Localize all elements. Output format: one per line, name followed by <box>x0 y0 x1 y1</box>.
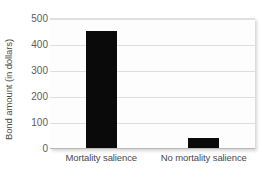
gridline <box>50 45 255 46</box>
y-tick-label: 100 <box>18 117 48 128</box>
y-tick-label: 500 <box>18 13 48 24</box>
gridline <box>50 123 255 124</box>
bar <box>86 31 117 148</box>
plot-area <box>50 18 255 149</box>
gridline <box>50 19 255 20</box>
y-tick-label: 300 <box>18 65 48 76</box>
category-label: No mortality salience <box>161 152 247 163</box>
gridline <box>50 97 255 98</box>
y-axis-title: Bond amount (in dollars) <box>0 0 16 179</box>
y-tick-label: 400 <box>18 39 48 50</box>
x-axis-category-labels: Mortality salienceNo mortality salience <box>50 152 255 172</box>
x-axis-baseline <box>50 148 255 149</box>
bar-chart-figure: Bond amount (in dollars) 010020030040050… <box>0 0 262 179</box>
y-tick-label: 200 <box>18 91 48 102</box>
gridline <box>50 71 255 72</box>
bar <box>188 138 219 148</box>
category-label: Mortality salience <box>65 152 137 163</box>
y-tick-label: 0 <box>18 143 48 154</box>
y-axis-tick-labels: 0100200300400500 <box>18 0 48 179</box>
